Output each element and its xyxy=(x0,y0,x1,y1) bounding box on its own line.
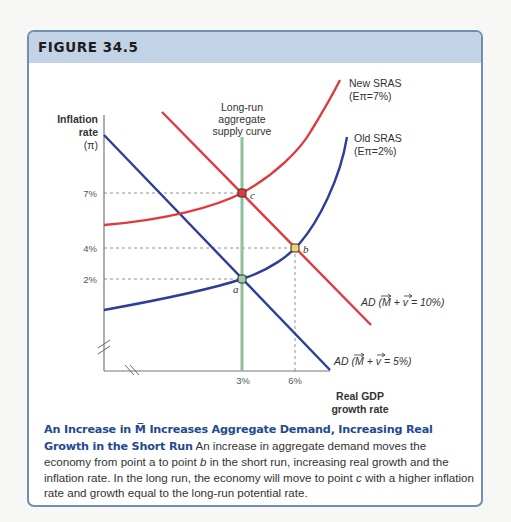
ad-low-suffix: = 5%) xyxy=(381,355,412,367)
ad-high-mid: + xyxy=(391,296,403,308)
svg-text:AD (M + v = 5%): AD (M + v = 5%) xyxy=(333,355,412,367)
ad-low-label: AD (M + v = 5%) xyxy=(333,353,412,367)
ad-low-prefix: AD ( xyxy=(333,355,357,367)
ad-high-prefix: AD ( xyxy=(360,296,384,308)
y-tick-4: 4% xyxy=(83,243,97,254)
x-tick-6: 6% xyxy=(288,375,302,386)
ad-high-m: M xyxy=(382,296,391,308)
point-c-label: c xyxy=(250,189,255,201)
ad-high-label: AD (M + v = 10%) xyxy=(360,294,444,308)
figure-caption: An Increase in M̅ Increases Aggregate De… xyxy=(44,421,476,501)
svg-text:AD (M + v = 10%): AD (M + v = 10%) xyxy=(360,296,444,308)
y-tick-2: 2% xyxy=(83,274,97,285)
x-break-mark-1 xyxy=(125,365,134,375)
ad-low-m: M xyxy=(355,355,364,367)
old-sras-label-1: Old SRAS xyxy=(354,132,402,144)
lras-label-1: Long-run xyxy=(221,101,263,113)
point-c-marker xyxy=(238,189,246,197)
axes xyxy=(104,115,330,371)
y-axis-title-2: rate xyxy=(79,126,98,138)
x-axis-title-2: growth rate xyxy=(331,403,388,415)
ad-low-mid: + xyxy=(364,355,376,367)
lras-label-3: supply curve xyxy=(213,125,272,137)
y-axis-title-3: (π) xyxy=(84,139,98,151)
x-break-mark-2 xyxy=(130,365,139,375)
ad-high-suffix: = 10%) xyxy=(408,296,444,308)
old-sras-curve xyxy=(104,137,347,310)
x-tick-3: 3% xyxy=(236,375,250,386)
new-sras-label-1: New SRAS xyxy=(349,77,402,89)
point-a-marker xyxy=(238,275,246,283)
point-a-label: a xyxy=(233,283,239,295)
point-b-label: b xyxy=(303,243,309,255)
point-b-marker xyxy=(291,244,299,252)
y-axis-title-1: Inflation xyxy=(57,113,98,125)
x-axis-title-1: Real GDP xyxy=(336,390,384,402)
old-sras-label-2: (Eπ=2%) xyxy=(354,145,397,157)
lras-label-2: aggregate xyxy=(218,113,265,125)
new-sras-label-2: (Eπ=7%) xyxy=(349,90,392,102)
y-tick-7: 7% xyxy=(83,188,97,199)
